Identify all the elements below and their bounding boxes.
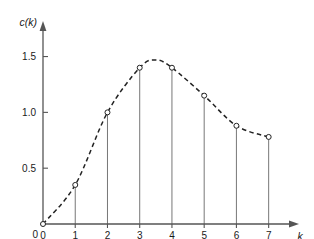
data-point-marker xyxy=(266,134,271,139)
x-axis-title: k xyxy=(297,230,303,239)
x-tick-label: 1 xyxy=(72,230,78,239)
interpolating-curve-path xyxy=(43,60,269,224)
x-tick-label: 3 xyxy=(137,230,143,239)
x-tick-label: 2 xyxy=(105,230,111,239)
y-axis-title: c(k) xyxy=(20,16,38,28)
y-tick-label: 1.5 xyxy=(22,51,36,62)
x-axis-ticks-group: 01234567 xyxy=(40,224,272,239)
y-tick-label: 0.5 xyxy=(22,163,36,174)
x-tick-label: 7 xyxy=(266,230,272,239)
axis-titles-group: c(k)k xyxy=(20,16,304,239)
data-point-marker xyxy=(169,65,174,70)
data-point-marker xyxy=(105,110,110,115)
y-axis-ticks-group: 00.51.01.5 xyxy=(22,51,48,239)
y-axis-arrowhead-icon xyxy=(40,21,47,31)
figure-container: 01234567 00.51.01.5 c(k)k xyxy=(0,0,314,239)
y-tick-label: 1.0 xyxy=(22,107,36,118)
x-tick-label: 0 xyxy=(40,230,46,239)
data-point-marker xyxy=(234,123,239,128)
dashed-curve xyxy=(43,60,269,224)
x-axis-arrowhead-icon xyxy=(289,221,299,228)
stem-plot-chart: 01234567 00.51.01.5 c(k)k xyxy=(0,0,314,239)
data-point-marker xyxy=(73,182,78,187)
x-tick-label: 4 xyxy=(169,230,175,239)
x-tick-label: 6 xyxy=(234,230,240,239)
y-tick-label: 0 xyxy=(32,229,38,239)
data-point-marker xyxy=(137,65,142,70)
stem-lines-group xyxy=(75,68,268,224)
data-point-marker xyxy=(202,93,207,98)
data-point-marker xyxy=(41,222,46,227)
x-tick-label: 5 xyxy=(201,230,207,239)
axes-group xyxy=(40,21,299,227)
